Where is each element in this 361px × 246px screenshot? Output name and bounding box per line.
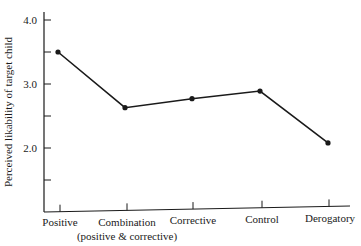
y-ticks xyxy=(44,20,51,180)
x-label-combination-sub: (positive & corrective) xyxy=(77,230,177,242)
x-ticks xyxy=(60,199,329,211)
data-points xyxy=(55,49,330,145)
x-label-combination: Combination xyxy=(98,216,155,228)
x-label-positive: Positive xyxy=(42,216,77,228)
data-point xyxy=(55,49,60,54)
chart-canvas xyxy=(0,0,361,246)
y-tick-label-3: 3.0 xyxy=(13,78,37,90)
x-label-corrective: Corrective xyxy=(170,214,216,226)
y-tick-label-4: 4.0 xyxy=(13,14,37,26)
data-point xyxy=(257,88,262,93)
y-tick-label-2: 2.0 xyxy=(13,142,37,154)
data-point xyxy=(325,140,330,145)
data-point xyxy=(122,105,127,110)
x-label-derogatory: Derogatory xyxy=(305,212,355,224)
x-label-control: Control xyxy=(245,213,279,225)
data-point xyxy=(189,96,194,101)
y-axis-label: Perceived likability of target child xyxy=(2,37,14,187)
